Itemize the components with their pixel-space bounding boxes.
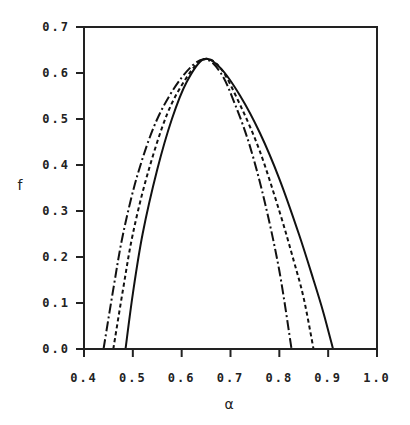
curves: [104, 59, 334, 349]
y-tick-label: 0.5: [42, 112, 70, 126]
x-tick-label: 0.7: [217, 371, 245, 385]
x-tick-label: 0.6: [168, 371, 196, 385]
x-tick-label: 0.5: [119, 371, 147, 385]
curve-solid: [126, 59, 334, 349]
x-tick-label: 1.0: [363, 371, 391, 385]
plot-frame: [84, 27, 377, 349]
y-tick-label: 0.3: [42, 204, 70, 218]
x-axis-label: α: [224, 396, 233, 412]
chart: 0.00.10.20.30.40.50.60.7 0.40.50.60.70.8…: [0, 0, 410, 425]
x-tick-label: 0.9: [314, 371, 342, 385]
x-axis-ticks: 0.40.50.60.70.80.91.0: [70, 349, 391, 385]
x-tick-label: 0.4: [70, 371, 98, 385]
y-tick-label: 0.7: [42, 20, 70, 34]
y-tick-label: 0.4: [42, 158, 70, 172]
y-axis-ticks: 0.00.10.20.30.40.50.60.7: [42, 20, 84, 356]
curve-dashed: [113, 59, 313, 349]
y-tick-label: 0.0: [42, 342, 70, 356]
y-tick-label: 0.6: [42, 66, 70, 80]
y-axis-label: f: [18, 177, 24, 193]
x-tick-label: 0.8: [265, 371, 293, 385]
y-tick-label: 0.2: [42, 250, 70, 264]
y-tick-label: 0.1: [42, 296, 70, 310]
